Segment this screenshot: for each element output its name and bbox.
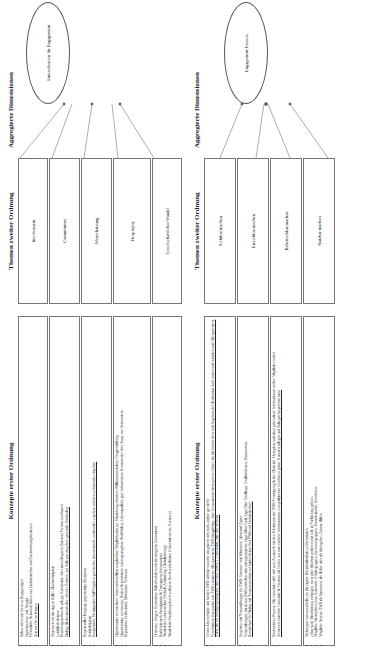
concept-item: Zeit vor Ort verbringen <box>34 319 39 637</box>
concept-item: Reputation; Exklusivität; Diskretion; Ve… <box>124 319 129 637</box>
concept-item: Strukturierter Prozess: Die Gemeinde tri… <box>272 319 277 637</box>
second-order-column: Themen zweiter Ordnung Involvement Commi… <box>4 158 182 304</box>
concept-box: Grosse Unterschiede und bei den ZWB sich… <box>204 316 236 646</box>
theme-box: Commitment <box>49 158 80 304</box>
first-order-header: Konzepte erster Ordnung <box>190 316 204 646</box>
theme-box: Hospitality <box>113 158 151 304</box>
theme-box: Sichtbar machen <box>204 158 236 304</box>
theme-box: Wertschätzung <box>81 158 112 304</box>
concept-item: Verschiedene Kategorien von ZWB existier… <box>211 319 220 637</box>
second-order-header: Themen zweiter Ordnung <box>190 158 204 304</box>
concept-item: Mögliche Nutzen: ZWB als Sponsoren, als … <box>319 319 324 637</box>
theme-box: Nutzbar machen <box>303 158 335 304</box>
concept-item: Austausch zwischen Gemeinde & Vereinen a… <box>277 319 282 637</box>
theme-box: Beherrschbar machen <box>270 158 302 304</box>
aggregate-dimension-ellipse: Antezedenzien für Engagement <box>26 2 70 104</box>
figure-engagement-process: Konzepte erster Ordnung Grosse Unterschi… <box>190 0 368 652</box>
theme-box: Involvement <box>18 158 48 304</box>
concept-item: Bereitschaft für Dialog und Zusammenarbe… <box>248 319 253 637</box>
theme-box: Erreichbar machen <box>237 158 269 304</box>
first-order-column: Konzepte erster Ordnung Grosse Unterschi… <box>190 316 368 646</box>
second-order-column: Themen zweiter Ordnung Sichtbar machen E… <box>190 158 368 304</box>
second-order-header: Themen zweiter Ordnung <box>4 158 18 304</box>
concept-box: Strukturierter Prozess: Die Gemeinde tri… <box>270 316 302 646</box>
concept-box: Awareness für die eigene Rolle; Glaubwür… <box>49 316 80 646</box>
concept-box: Angebote und Veranstaltungen für ZWB: So… <box>237 316 269 646</box>
aggregate-column: Aggregierte Dimensionen Antezedenzien fü… <box>4 4 182 152</box>
concept-box: Opportunities to contribute: Interessenk… <box>113 316 151 646</box>
concept-box: Selber offen sein für neue Begegnungen E… <box>18 316 48 646</box>
concept-item: Dialog; Diskussionskultur, offenes Zuhör… <box>65 319 70 637</box>
concept-item: Wandel der Beziehung durch verlorene Rec… <box>168 319 173 637</box>
aggregate-header: Aggregierte Dimensionen <box>4 4 18 152</box>
concept-box: Respektvoller Umgang; gegenseitige Akzep… <box>81 316 112 646</box>
concept-item: Kooperation; Partizipativer Stil/Vorgehe… <box>92 319 97 637</box>
concept-box: Meinungen von ausserhalb, um die eigene … <box>303 316 335 646</box>
first-order-column: Konzepte erster Ordnung Selber offen sei… <box>4 316 182 646</box>
first-order-header: Konzepte erster Ordnung <box>4 316 18 646</box>
aggregate-header: Aggregierte Dimensionen <box>190 4 204 152</box>
theme-box: Gesellschaftlicher Wandel <box>152 158 182 304</box>
aggregate-column: Aggregierte Dimensionen Engagement-Proze… <box>190 4 368 152</box>
concept-box: Ortsnutze, Jüngere Generation; Weltoffen… <box>152 316 182 646</box>
aggregate-dimension-ellipse: Engagement-Prozess <box>224 2 268 104</box>
figure-antecedents: Konzepte erster Ordnung Selber offen sei… <box>4 0 182 652</box>
